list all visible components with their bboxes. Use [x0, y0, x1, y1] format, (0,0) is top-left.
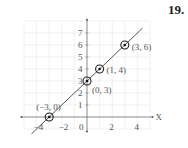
- x-tick-label: −2: [59, 122, 69, 132]
- x-axis-arrow: [20, 116, 22, 118]
- point-label: (3, 6): [132, 42, 152, 52]
- point-dot: [124, 44, 127, 47]
- y-tick-label: 7: [78, 28, 83, 38]
- point-label: (0, 3): [92, 85, 112, 95]
- point-dot: [98, 68, 101, 71]
- y-tick-label: 1: [78, 100, 83, 110]
- y-tick-label: 3: [78, 76, 83, 86]
- y-tick-label: 5: [78, 52, 83, 62]
- y-axis-arrow: [86, 19, 88, 21]
- point-label: (−3, 0): [36, 102, 61, 112]
- x-tick-label: 0: [79, 122, 84, 132]
- point-dot: [48, 116, 51, 119]
- x-axis-label: X: [156, 112, 163, 122]
- point-label: (1, 4): [107, 65, 127, 75]
- point-dot: [86, 80, 89, 83]
- y-tick-label: 4: [78, 64, 83, 74]
- x-tick-label: 2: [109, 122, 114, 132]
- x-tick-label: 4: [134, 122, 139, 132]
- y-axis-arrow: [86, 130, 88, 132]
- line-graph: X−4−20241234567(−3, 0)(0, 3)(1, 4)(3, 6): [0, 0, 188, 148]
- x-axis-arrow: [152, 116, 154, 118]
- y-tick-label: 6: [78, 40, 83, 50]
